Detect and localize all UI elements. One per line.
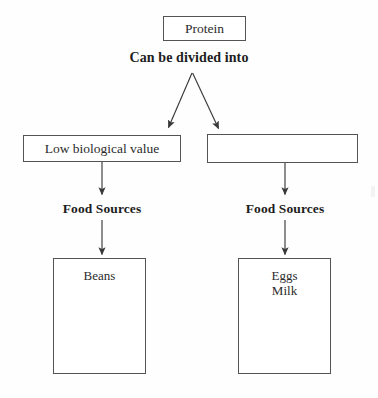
connector-label-food-sources-right: Food Sources: [205, 201, 365, 217]
scan-artifact-mark: [371, 186, 375, 197]
connector-label-can-be-divided-into: Can be divided into: [0, 50, 378, 66]
node-blank-type-answer-box[interactable]: [207, 134, 358, 163]
node-protein-label: Protein: [185, 21, 224, 37]
node-sources-beans[interactable]: Beans: [53, 258, 146, 374]
node-sources-eggs-milk-label: Eggs Milk: [272, 268, 298, 299]
arrow-protein-to-low-biological-value: [169, 73, 193, 128]
node-low-biological-value-label: Low biological value: [45, 141, 160, 157]
node-protein[interactable]: Protein: [163, 16, 246, 41]
node-low-biological-value[interactable]: Low biological value: [23, 135, 181, 162]
arrow-protein-to-blank-type: [193, 73, 219, 129]
protein-flowchart: Protein Can be divided into Low biologic…: [0, 0, 378, 398]
connector-label-food-sources-left: Food Sources: [22, 201, 182, 217]
node-sources-eggs-milk[interactable]: Eggs Milk: [238, 258, 331, 374]
node-sources-beans-label: Beans: [84, 268, 116, 283]
